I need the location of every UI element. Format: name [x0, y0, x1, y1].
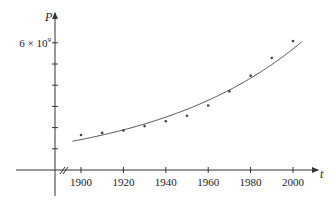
x-tick-label: 1920: [112, 176, 135, 188]
x-tick-label: 1960: [197, 176, 220, 188]
x-tick-label: 1980: [240, 176, 263, 188]
data-point: [165, 120, 168, 123]
data-point: [101, 132, 104, 135]
data-point: [80, 134, 83, 137]
x-tick-label: 2000: [282, 176, 305, 188]
data-point: [249, 74, 252, 77]
x-axis-label: t: [320, 167, 324, 181]
data-points: [80, 40, 295, 137]
x-tick-label: 1940: [155, 176, 178, 188]
data-point: [292, 40, 295, 43]
data-point: [143, 125, 146, 128]
data-point: [122, 129, 125, 132]
x-tick-label: 1900: [70, 176, 93, 188]
data-point: [271, 57, 274, 60]
population-chart: 190019201940196019802000 P t 6 × 109: [0, 0, 336, 202]
y-tick-label-base: 6 × 10: [19, 37, 48, 49]
data-point: [186, 114, 189, 117]
y-axis-label: P: [44, 10, 53, 24]
model-curve: [73, 42, 302, 141]
data-point: [228, 90, 231, 93]
y-tick-label-exponent: 9: [48, 36, 52, 44]
y-tick-label-top: 6 × 109: [19, 36, 51, 49]
data-point: [207, 104, 210, 107]
